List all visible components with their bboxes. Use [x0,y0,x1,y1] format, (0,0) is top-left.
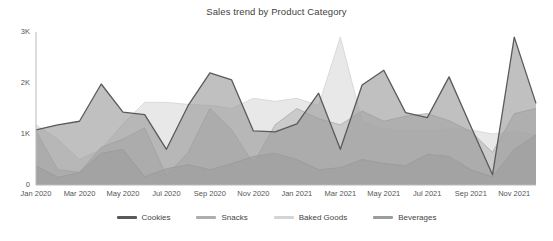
y-axis-tick-label: 3K [8,28,30,36]
chart-legend: CookiesSnacksBaked GoodsBeverages [0,213,553,222]
legend-swatch-icon [196,216,216,219]
legend-item-cookies[interactable]: Cookies [117,213,171,222]
legend-label: Snacks [221,213,247,222]
legend-label: Baked Goods [299,213,347,222]
legend-swatch-icon [373,216,393,219]
y-axis-tick-label: 2K [8,79,30,87]
legend-label: Beverages [398,213,436,222]
legend-swatch-icon [274,216,294,219]
chart-container: Sales trend by Product Category 01K2K3K … [0,0,553,241]
legend-item-beverages[interactable]: Beverages [373,213,436,222]
series-layer [36,37,536,185]
chart-plot-area [0,0,553,241]
legend-swatch-icon [117,216,137,219]
y-axis-tick-label: 1K [8,130,30,138]
legend-item-snacks[interactable]: Snacks [196,213,247,222]
legend-label: Cookies [142,213,171,222]
x-axis-tick-label: Nov 2021 [484,189,544,198]
y-axis-tick-label: 0 [8,181,30,189]
legend-item-baked-goods[interactable]: Baked Goods [274,213,347,222]
